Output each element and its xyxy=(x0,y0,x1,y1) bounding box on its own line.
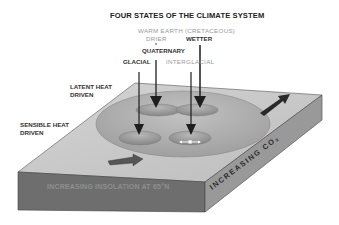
drier-dot xyxy=(155,43,157,45)
label-drier: DRIER xyxy=(146,36,167,42)
climate-state-space-ellipse xyxy=(96,91,270,157)
label-wetter: WETTER xyxy=(186,36,212,42)
front-face-label: INCREASING INSOLATION AT 65°N xyxy=(47,183,169,190)
diagram-title: FOUR STATES OF THE CLIMATE SYSTEM xyxy=(110,12,264,20)
label-latent-heat: LATENT HEAT xyxy=(70,84,112,90)
label-sensible-heat: SENSIBLE HEAT xyxy=(20,122,69,128)
label-warm-earth: WARM EARTH (CRETACEOUS) xyxy=(138,28,235,34)
label-interglacial: INTERGLACIAL xyxy=(166,59,214,65)
label-glacial: GLACIAL xyxy=(123,59,151,65)
state-ellipse-glacial xyxy=(119,131,161,145)
label-sensible-driven: DRIVEN xyxy=(20,130,43,136)
state-ellipse-drier xyxy=(136,104,180,116)
label-latent-driven: DRIVEN xyxy=(70,92,93,98)
label-quaternary: QUATERNARY xyxy=(142,48,185,54)
state-ellipse-wetter xyxy=(176,104,218,116)
